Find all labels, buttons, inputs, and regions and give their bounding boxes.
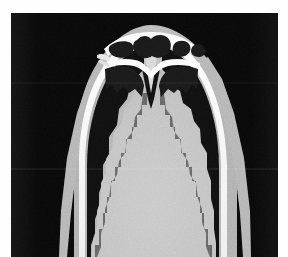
ct-scan-frame bbox=[11, 13, 278, 257]
sinus-cell-central bbox=[135, 35, 171, 58]
ct-image-viewport: CT Axial Head / Paranasal Sinuses Bone W… bbox=[0, 0, 288, 257]
ct-scan-image bbox=[11, 13, 278, 257]
sinus-cell-right-lateral bbox=[191, 44, 206, 57]
